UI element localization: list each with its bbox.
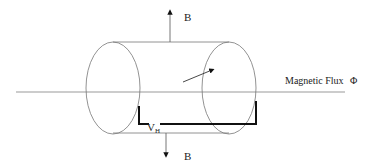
flux-symbol: Φ [350,75,357,86]
b-field-top-label: B [184,11,191,23]
cylinder-right-end [202,42,256,134]
magnetic-flux-label: Magnetic Flux [285,75,344,86]
hall-effect-diagram: B B VH Magnetic Flux Φ [0,0,373,168]
hall-voltage-label: VH [147,121,160,135]
b-field-bottom-label: B [184,150,191,162]
current-direction-arrow-icon [183,70,212,82]
cylinder-left-end [86,42,140,134]
hall-voltage-bracket-right [160,101,256,124]
